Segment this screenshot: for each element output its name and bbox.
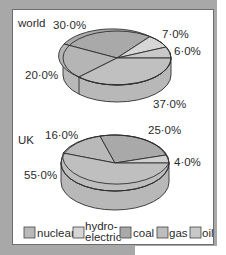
- legend-label-gas: gas: [169, 227, 188, 239]
- world-label-20: 20·0%: [25, 69, 58, 81]
- legend-label-hydro-2: electric: [85, 231, 122, 243]
- world-label-6: 6·0%: [174, 45, 201, 57]
- legend-swatch-gas: [157, 227, 168, 238]
- uk-label-16: 16·0%: [45, 129, 78, 141]
- world-title: world: [17, 17, 45, 29]
- legend-label-coal: coal: [133, 227, 154, 239]
- world-label-37: 37·0%: [153, 98, 186, 110]
- uk-pie: [61, 135, 169, 210]
- world-label-7: 7·0%: [162, 28, 189, 40]
- world-label-30: 30·0%: [53, 19, 86, 31]
- world-pie: [59, 29, 171, 102]
- uk-label-4: 4·0%: [174, 156, 201, 168]
- pie-charts: world 30·0% 7·0% 6·0% 20·0% 37·0% UK 16·…: [0, 0, 226, 255]
- uk-label-55: 55·0%: [24, 169, 57, 181]
- legend-swatch-hydro: [73, 227, 84, 238]
- legend-swatch-nuclear: [24, 227, 35, 238]
- legend-swatch-oil: [190, 227, 201, 238]
- uk-title: UK: [18, 134, 34, 146]
- legend-swatch-coal: [120, 227, 131, 238]
- legend: nuclear hydro- electric coal gas oil: [24, 220, 214, 243]
- legend-label-oil: oil: [202, 227, 214, 239]
- legend-label-nuclear: nuclear: [37, 227, 75, 239]
- uk-label-25: 25·0%: [148, 124, 181, 136]
